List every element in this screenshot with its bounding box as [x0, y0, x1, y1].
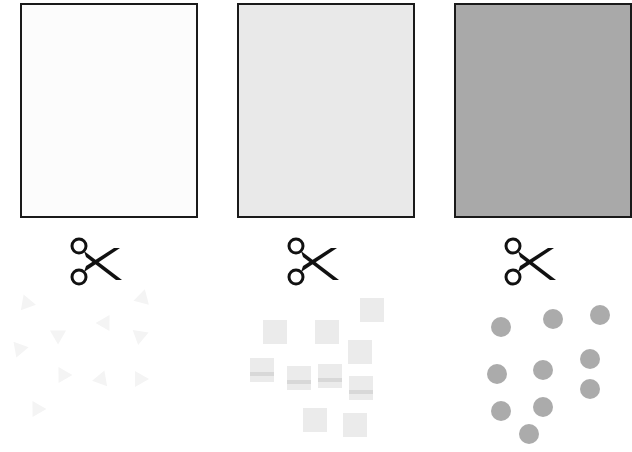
circle-piece: [543, 309, 563, 329]
circle-piece: [491, 401, 511, 421]
triangle-piece: [96, 311, 117, 331]
square-piece: [250, 358, 274, 382]
square-piece: [343, 413, 367, 437]
circle-piece: [580, 379, 600, 399]
square-piece: [287, 366, 311, 390]
triangle-piece: [133, 287, 152, 305]
triangle-piece: [26, 397, 47, 417]
scissors-icon: [285, 236, 341, 288]
scissors-icon: [502, 236, 558, 288]
circle-piece: [590, 305, 610, 325]
triangle-piece: [7, 336, 28, 357]
scissors-icon: [68, 236, 124, 288]
triangle-piece: [92, 368, 112, 387]
triangle-piece: [135, 371, 149, 387]
square-piece: [348, 340, 372, 364]
circle-piece: [519, 424, 539, 444]
triangle-piece: [46, 324, 66, 345]
circle-piece: [533, 360, 553, 380]
square-piece: [263, 320, 287, 344]
circle-piece: [580, 349, 600, 369]
paper-sheet-light-gray: [237, 3, 415, 218]
paper-sheet-white: [20, 3, 198, 218]
triangle-piece: [16, 292, 36, 311]
paper-sheet-dark-gray: [454, 3, 632, 218]
square-piece: [303, 408, 327, 432]
square-piece: [349, 376, 373, 400]
square-piece: [360, 298, 384, 322]
square-piece: [315, 320, 339, 344]
circle-piece: [487, 364, 507, 384]
triangle-piece: [52, 363, 73, 383]
circle-piece: [491, 317, 511, 337]
triangle-piece: [133, 325, 152, 345]
square-piece: [318, 364, 342, 388]
circle-piece: [533, 397, 553, 417]
